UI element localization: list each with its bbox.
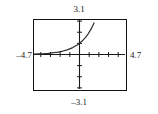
x-max-label: 4.7 bbox=[130, 50, 158, 60]
graphing-calculator-window: 3.1 –4.7 4.7 –3.1 bbox=[0, 0, 158, 114]
x-min-label: –4.7 bbox=[2, 50, 32, 60]
plot-frame bbox=[33, 19, 127, 91]
y-min-label: –3.1 bbox=[0, 97, 158, 107]
y-max-label: 3.1 bbox=[0, 4, 158, 14]
exponential-curve bbox=[34, 23, 94, 54]
plot-area bbox=[34, 20, 125, 89]
